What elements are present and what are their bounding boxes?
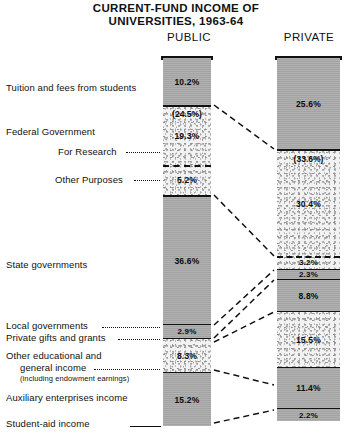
private-value-state: 2.3%	[299, 270, 318, 279]
public-segment-auxiliary[interactable]: 15.2%	[163, 372, 211, 426]
leader-local-governments	[102, 327, 160, 328]
leader-for-research	[126, 152, 160, 153]
connector-local	[214, 270, 274, 325]
public-segment-other-educational[interactable]: 8.3%	[163, 338, 211, 372]
leader-private-gifts	[118, 339, 160, 340]
label-for-research: For Research	[58, 146, 117, 157]
label-other-educational-note: (including endowment earnings)	[20, 374, 129, 383]
column-header-private: PRIVATE	[270, 31, 348, 43]
label-other-educational-line1: Other educational and	[6, 350, 102, 361]
public-segment-state[interactable]: 36.6%	[163, 195, 211, 324]
label-state-governments: State governments	[6, 259, 87, 270]
connector-auxiliary	[214, 370, 274, 385]
public-group-total-federal: (24.5%)	[163, 109, 211, 119]
label-other-educational-line2: general income	[20, 362, 86, 373]
label-tuition: Tuition and fees from students	[6, 82, 136, 93]
private-value-student-aid: 2.2%	[299, 411, 318, 420]
label-auxiliary-enterprises: Auxiliary enterprises income	[6, 392, 128, 403]
label-student-aid: Student-aid income	[6, 418, 90, 429]
private-value-local: 8.8%	[298, 291, 318, 301]
label-other-purposes: Other Purposes	[55, 174, 123, 185]
private-segment-federal-other[interactable]: 3.2%	[277, 256, 340, 269]
private-value-federal-research: 30.4%	[296, 199, 321, 209]
public-value-auxiliary: 15.2%	[174, 395, 199, 405]
public-segment-tuition[interactable]: 10.2%	[163, 58, 211, 105]
public-value-tuition: 10.2%	[174, 77, 199, 87]
chart-canvas: CURRENT-FUND INCOME OF UNIVERSITIES, 196…	[0, 0, 352, 438]
private-segment-federal-research[interactable]: 30.4%	[277, 149, 340, 256]
public-value-local: 2.9%	[177, 327, 196, 336]
label-local-governments: Local governments	[6, 320, 88, 331]
leader-other-purposes	[134, 180, 160, 181]
chart-title-line-1: CURRENT-FUND INCOME OF	[0, 2, 352, 15]
private-segment-tuition[interactable]: 25.6%	[277, 58, 340, 149]
label-private-gifts: Private gifts and grants	[6, 332, 106, 343]
private-group-total-federal: (33.6%)	[277, 154, 340, 164]
baseline-rule-student-aid	[130, 426, 161, 427]
private-segment-local[interactable]: 8.8%	[277, 279, 340, 311]
public-value-federal-other: 5.2%	[177, 175, 197, 185]
private-value-tuition: 25.6%	[296, 99, 321, 109]
private-value-auxiliary: 11.4%	[296, 383, 321, 393]
private-segment-student-aid[interactable]: 2.2%	[277, 408, 340, 421]
bar-column-public: 10.2% 19.3% (24.5%) 5.2% 36.6% 2.9% 8.3%…	[161, 56, 213, 60]
private-segment-state[interactable]: 2.3%	[277, 269, 340, 279]
connector-private-gifts	[214, 280, 274, 338]
connector-tuition	[214, 105, 274, 149]
public-value-federal-research: 19.3%	[174, 131, 199, 141]
private-value-other-educational: 15.5%	[296, 335, 321, 345]
private-segment-auxiliary[interactable]: 11.4%	[277, 367, 340, 408]
connector-other-educational	[214, 312, 274, 342]
public-value-other-educational: 8.3%	[177, 351, 197, 361]
column-header-public: PUBLIC	[150, 31, 228, 43]
bar-column-private: 25.6% 30.4% (33.6%) 3.2% 2.3% 8.8% 15.5%…	[275, 56, 342, 60]
private-value-federal-other: 3.2%	[299, 258, 318, 267]
label-federal-government: Federal Government	[6, 126, 95, 137]
leader-other-educational	[94, 369, 160, 370]
private-segment-other-educational[interactable]: 15.5%	[277, 311, 340, 367]
connector-federal	[214, 195, 274, 256]
public-value-state: 36.6%	[174, 256, 199, 266]
connector-student-aid	[214, 410, 274, 423]
chart-title-line-2: UNIVERSITIES, 1963-64	[0, 15, 352, 28]
public-segment-federal-other[interactable]: 5.2%	[163, 165, 211, 195]
public-segment-local[interactable]: 2.9%	[163, 324, 211, 338]
